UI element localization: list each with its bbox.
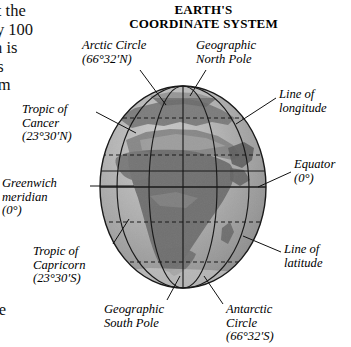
label-line: (66°32′N) bbox=[82, 53, 146, 67]
label-line: North Pole bbox=[196, 53, 256, 67]
label-line: Line of bbox=[279, 88, 327, 102]
label-line: Line of bbox=[284, 243, 322, 257]
leader-line-of-longitude bbox=[236, 98, 276, 124]
label-tropic-of-cancer: Tropic of Cancer (23°30′N) bbox=[22, 103, 72, 144]
label-line: Capricorn bbox=[33, 259, 85, 273]
label-line: Tropic of bbox=[33, 245, 85, 259]
label-line: Circle bbox=[226, 317, 274, 331]
label-line: Cancer bbox=[22, 117, 72, 131]
label-line: (23°30′N) bbox=[22, 130, 72, 144]
label-greenwich-meridian: Greenwich meridian (0°) bbox=[2, 177, 57, 218]
label-line: South Pole bbox=[104, 317, 164, 331]
label-geographic-north-pole: Geographic North Pole bbox=[196, 39, 256, 66]
label-line: (0°) bbox=[294, 172, 335, 186]
label-geographic-south-pole: Geographic South Pole bbox=[104, 303, 164, 330]
label-equator: Equator (0°) bbox=[294, 158, 335, 185]
figure-canvas: bit the ely 100 rth is t is rom r the s.… bbox=[0, 0, 351, 347]
label-line: (66°32′S) bbox=[226, 330, 274, 344]
label-line: latitude bbox=[284, 257, 322, 271]
label-line: Arctic Circle bbox=[82, 39, 146, 53]
label-line: (0°) bbox=[2, 204, 57, 218]
label-line: longitude bbox=[279, 102, 327, 116]
label-tropic-of-capricorn: Tropic of Capricorn (23°30′S) bbox=[33, 245, 85, 286]
label-line: meridian bbox=[2, 191, 57, 205]
label-arctic-circle: Arctic Circle (66°32′N) bbox=[82, 39, 146, 66]
label-line: Geographic bbox=[196, 39, 256, 53]
label-line: (23°30′S) bbox=[33, 272, 85, 286]
label-antarctic-circle: Antarctic Circle (66°32′S) bbox=[226, 303, 274, 344]
label-line: Greenwich bbox=[2, 177, 57, 191]
label-line: Antarctic bbox=[226, 303, 274, 317]
label-line-of-latitude: Line of latitude bbox=[284, 243, 322, 270]
label-line: Tropic of bbox=[22, 103, 72, 117]
label-line: Equator bbox=[294, 158, 335, 172]
label-line-of-longitude: Line of longitude bbox=[279, 88, 327, 115]
label-line: Geographic bbox=[104, 303, 164, 317]
